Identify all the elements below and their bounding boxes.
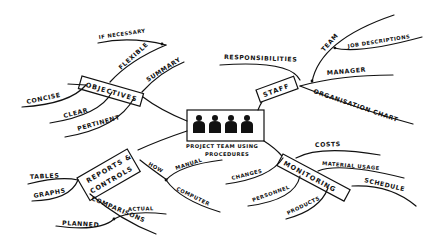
line-manager <box>300 75 393 86</box>
label-summary: SUMMARY <box>145 55 182 82</box>
label-costs: COSTS <box>315 140 341 148</box>
label-organisation-chart: ORGANISATION CHART <box>313 87 400 123</box>
line-responsibilities <box>220 64 300 80</box>
branch-objectives: OBJECTIVES FLEXIBLE IF NECESSARY SUMMARY… <box>22 27 187 137</box>
connector-reports <box>138 131 187 150</box>
branch-staff: STAFF RESPONSIBILITIES TEAM JOB DESCRIPT… <box>220 15 422 124</box>
label-computer: COMPUTER <box>176 186 211 207</box>
label-manager: MANAGER <box>326 66 366 76</box>
label-pertinent: PERTINENT <box>76 113 120 132</box>
central-node: PROJECT TEAM USING PROCEDURES <box>186 110 264 157</box>
line-if-necessary <box>98 40 166 45</box>
label-responsibilities: RESPONSIBILITIES <box>224 53 297 63</box>
label-personnel: PERSONNEL <box>251 184 290 203</box>
label-changes: CHANGES <box>231 168 263 181</box>
label-actual: ACTUAL <box>128 205 154 212</box>
label-material-usage: MATERIAL USAGE <box>322 160 380 171</box>
branch-monitoring: MONITORING COSTS MATERIAL USAGE SCHEDULE… <box>226 140 416 219</box>
line-schedule <box>352 186 416 206</box>
label-team: TEAM <box>320 32 340 53</box>
connector-monitoring <box>264 141 282 156</box>
mind-map-diagram: PROJECT TEAM USING PROCEDURES OBJECTIVES… <box>0 0 443 252</box>
label-concise: CONCISE <box>26 91 61 105</box>
line-costs <box>296 151 380 158</box>
label-planned: PLANNED <box>62 219 100 228</box>
connector-objectives <box>143 97 187 121</box>
label-if-necessary: IF NECESSARY <box>98 27 146 40</box>
central-label-line2: PROCEDURES <box>205 151 249 157</box>
central-label-line1: PROJECT TEAM USING <box>186 143 258 150</box>
label-graphs: GRAPHS <box>33 186 66 199</box>
label-job-descriptions: JOB DESCRIPTIONS <box>346 33 410 50</box>
